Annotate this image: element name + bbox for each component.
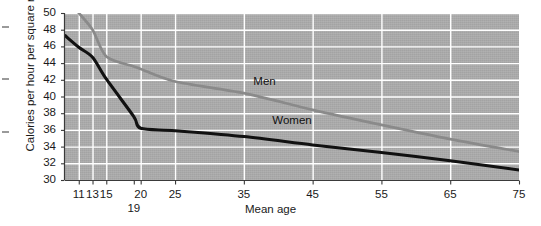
y-tick-label: 46 xyxy=(43,40,56,52)
y-tick-label: 38 xyxy=(43,107,56,119)
x-tick-label: 20 xyxy=(134,189,147,201)
x-tick-label: 65 xyxy=(444,189,457,201)
y-tick-label: 44 xyxy=(43,57,56,69)
edge-mark xyxy=(2,26,9,28)
y-tick-label: 50 xyxy=(43,7,56,19)
x-axis-title: Mean age xyxy=(0,203,541,215)
y-tick-label: 32 xyxy=(43,157,56,169)
x-tick-label: 15 xyxy=(100,189,113,201)
x-tick-label: 11 xyxy=(73,189,85,201)
x-tick-label: 25 xyxy=(169,189,182,201)
series-label-women: Women xyxy=(272,114,311,126)
x-tick-label: 75 xyxy=(513,189,526,201)
x-tick-label: 35 xyxy=(237,189,250,201)
edge-mark xyxy=(2,78,9,80)
y-tick-label: 30 xyxy=(43,174,56,186)
x-tick-label: 55 xyxy=(375,189,388,201)
chart-figure: Calories per hour per square meter 50484… xyxy=(0,0,541,226)
series-label-men: Men xyxy=(253,75,275,87)
y-axis-tick-labels: 5048464442403836343230 xyxy=(26,0,56,226)
y-tick-label: 34 xyxy=(43,141,56,153)
y-tick-label: 40 xyxy=(43,91,56,103)
plot-svg xyxy=(65,13,519,180)
x-tick-label: 13 xyxy=(86,189,99,201)
y-tick-label: 36 xyxy=(43,124,56,136)
edge-mark xyxy=(2,131,9,133)
y-tick-label: 42 xyxy=(43,74,56,86)
page-edge-marks xyxy=(0,0,14,226)
plot-area xyxy=(65,13,519,180)
x-tick-label: 45 xyxy=(306,189,319,201)
y-tick-label: 48 xyxy=(43,24,56,36)
